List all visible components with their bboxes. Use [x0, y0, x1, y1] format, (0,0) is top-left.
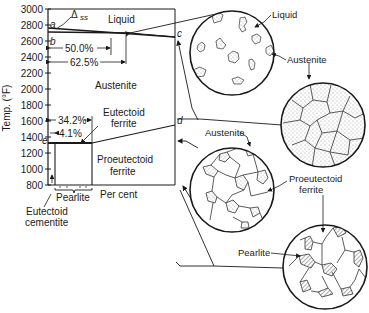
svg-text:2400: 2400 [21, 52, 44, 63]
svg-text:3000: 3000 [21, 4, 44, 15]
svg-text:cementite: cementite [25, 217, 69, 228]
svg-text:ferrite: ferrite [110, 166, 136, 177]
y-axis-labels: 3000 2800 2600 2400 2200 2000 1800 1600 … [21, 4, 44, 191]
svg-text:2000: 2000 [21, 84, 44, 95]
svg-text:a: a [50, 19, 56, 30]
svg-text:ferrite: ferrite [299, 184, 323, 195]
svg-text:34.2%: 34.2% [58, 115, 86, 126]
micrograph-austenite [281, 83, 365, 168]
svg-text:Pearlite: Pearlite [238, 247, 270, 258]
svg-text:Proeutectoid: Proeutectoid [97, 154, 153, 165]
svg-text:Austenite: Austenite [287, 54, 327, 65]
svg-text:2200: 2200 [21, 68, 44, 79]
svg-text:e: e [42, 135, 48, 146]
micrograph-pearlite [283, 225, 367, 309]
svg-text:b: b [50, 36, 56, 47]
svg-text:d: d [177, 115, 183, 126]
svg-text:Eutectoid: Eutectoid [103, 107, 145, 118]
svg-text:Eutectoid: Eutectoid [26, 206, 68, 217]
svg-text:1400: 1400 [21, 132, 44, 143]
svg-text:Austenite: Austenite [95, 80, 137, 91]
svg-text:50.0%: 50.0% [65, 43, 93, 54]
svg-text:Austenite: Austenite [205, 127, 245, 138]
svg-text:1600: 1600 [21, 116, 44, 127]
svg-text:62.5%: 62.5% [70, 57, 98, 68]
svg-text:2800: 2800 [21, 20, 44, 31]
svg-text:Liquid: Liquid [272, 9, 297, 20]
svg-text:Δ: Δ [71, 9, 78, 20]
svg-text:1200: 1200 [21, 148, 44, 159]
svg-text:Per cent: Per cent [100, 189, 137, 200]
svg-text:4.1%: 4.1% [59, 128, 82, 139]
region-labels: Liquid Austenite Eutectoid ferrite Proeu… [95, 14, 153, 177]
svg-text:ss: ss [80, 13, 88, 22]
solidus-line [48, 32, 130, 33]
svg-text:1800: 1800 [21, 100, 44, 111]
svg-text:Proeutectoid: Proeutectoid [289, 173, 342, 184]
svg-text:c: c [177, 28, 182, 39]
svg-text:Liquid: Liquid [108, 14, 135, 25]
svg-text:800: 800 [26, 180, 43, 191]
phase-diagram-figure: 3000 2800 2600 2400 2200 2000 1800 1600 … [0, 0, 369, 313]
svg-text:Pearlite: Pearlite [56, 192, 90, 203]
svg-text:ferrite: ferrite [111, 118, 137, 129]
svg-text:2600: 2600 [21, 36, 44, 47]
y-axis-label: Temp. (°F) [1, 85, 12, 132]
svg-text:1000: 1000 [21, 164, 44, 175]
micrograph-proeutectoid [190, 148, 274, 232]
